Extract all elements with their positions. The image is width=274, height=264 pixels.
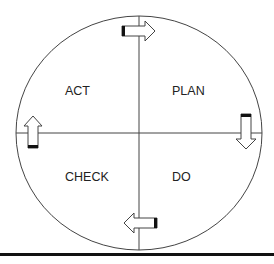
arrow-left-icon (124, 213, 157, 233)
label-act: ACT (65, 84, 90, 98)
label-check: CHECK (65, 170, 109, 184)
bottom-rule (0, 253, 274, 256)
label-plan: PLAN (172, 84, 205, 98)
label-do: DO (172, 170, 191, 184)
arrow-up-icon (24, 116, 42, 148)
arrow-down-icon (236, 114, 256, 149)
pdca-diagram: ACT PLAN CHECK DO (0, 0, 274, 264)
